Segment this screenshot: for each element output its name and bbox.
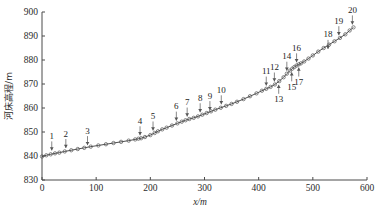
riverbed-elevation-chart: 830840850860870880890900 010020030040050…: [0, 0, 384, 213]
annotation-label: 17: [294, 77, 304, 87]
annotation-label: 8: [198, 93, 203, 103]
annotation-label: 2: [64, 129, 69, 139]
annotation-label: 16: [292, 43, 302, 53]
x-axis-title: x/m: [192, 197, 207, 207]
y-axis-title: 河床高程/m: [3, 72, 14, 120]
annotation-label: 19: [334, 16, 344, 26]
annotation-label: 20: [348, 5, 358, 15]
annotation-label: 18: [324, 29, 334, 39]
annotation-label: 13: [274, 94, 284, 104]
annotation-2: 2: [64, 129, 69, 149]
annotation-label: 10: [217, 85, 227, 95]
annotation-label: 14: [282, 51, 292, 61]
annotation-label: 1: [50, 131, 55, 141]
annotation-label: 12: [270, 62, 279, 72]
annotation-1: 1: [50, 131, 55, 151]
annotation-label: 6: [174, 101, 179, 111]
annotation-label: 3: [85, 126, 90, 136]
y-axis-tick-label: 850: [24, 127, 39, 137]
x-axis-tick-label: 100: [89, 183, 104, 193]
x-axis-tick-label: 300: [197, 183, 212, 193]
y-axis-tick-label: 830: [24, 175, 39, 185]
x-axis-tick-label: 200: [143, 183, 158, 193]
y-axis-tick-label: 870: [24, 79, 39, 89]
annotation-label: 4: [138, 116, 143, 126]
annotation-label: 9: [208, 91, 213, 101]
x-axis-tick-label: 600: [360, 183, 375, 193]
x-axis-tick-label: 500: [306, 183, 321, 193]
x-axis-tick-label: 0: [40, 183, 45, 193]
y-axis-tick-label: 890: [24, 31, 39, 41]
y-axis-tick-label: 840: [24, 151, 39, 161]
annotation-label: 7: [185, 97, 190, 107]
annotation-label: 5: [151, 111, 156, 121]
x-axis-tick-label: 400: [252, 183, 267, 193]
y-axis-tick-label: 880: [24, 55, 39, 65]
y-axis-tick-label: 900: [24, 7, 39, 17]
y-axis-tick-label: 860: [24, 103, 39, 113]
